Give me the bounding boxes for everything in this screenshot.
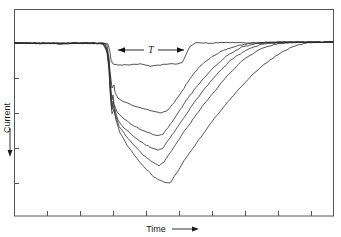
y-axis-label: Current [2,102,12,133]
x-axis-label: Time [146,224,166,234]
chart-background [0,0,341,237]
duration-label: T [148,45,154,55]
current-vs-time-chart: T Current Time [0,0,341,237]
figure-container: T Current Time [0,0,341,237]
